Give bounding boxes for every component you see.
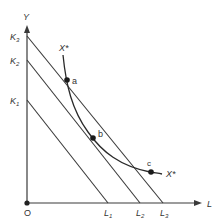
svg-text:L1: L1 — [104, 208, 112, 219]
point-a-label: a — [72, 76, 77, 86]
point-b-dot — [90, 135, 96, 141]
y-axis-label: Y — [23, 12, 30, 22]
y-intercept-label-k2: K2 — [10, 56, 20, 67]
point-a-dot — [64, 77, 70, 83]
origin-label: O — [24, 208, 31, 218]
point-c-dot — [148, 169, 154, 175]
y-intercept-label-k1: K1 — [10, 96, 19, 107]
isocost-lines — [27, 36, 163, 203]
x-intercept-label-l1: L1 — [104, 208, 112, 219]
isoquant-diagram: a b c X* X* Y L O K3 K2 K1 L1 L2 L3 — [0, 0, 219, 224]
svg-text:L2: L2 — [136, 208, 145, 219]
curve-label-top: X* — [58, 43, 69, 53]
point-c-label: c — [147, 159, 151, 168]
svg-text:K2: K2 — [10, 56, 20, 67]
svg-text:L3: L3 — [160, 208, 169, 219]
x-intercept-label-l3: L3 — [160, 208, 169, 219]
svg-text:K1: K1 — [10, 96, 19, 107]
isocost-line-1 — [27, 100, 108, 203]
isoquant-curve — [63, 55, 162, 174]
x-intercept-label-l2: L2 — [136, 208, 145, 219]
svg-text:K3: K3 — [10, 32, 20, 43]
y-intercept-label-k3: K3 — [10, 32, 20, 43]
x-axis-label: L — [207, 199, 212, 209]
x-axis-arrow-icon — [194, 200, 202, 206]
point-b-label: b — [98, 129, 103, 139]
curve-label-bottom: X* — [165, 169, 176, 179]
isocost-line-3 — [27, 36, 163, 203]
y-axis-arrow-icon — [24, 25, 30, 33]
isocost-line-2 — [27, 60, 140, 203]
origin-dot — [24, 200, 29, 205]
